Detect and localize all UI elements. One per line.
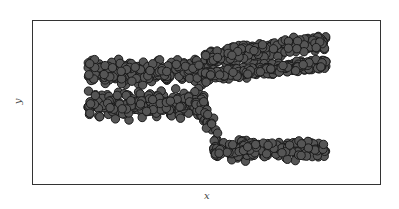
scatter-point — [244, 143, 252, 151]
scatter-point — [279, 61, 287, 69]
scatter-point — [223, 148, 231, 156]
scatter-point — [278, 149, 286, 157]
scatter-point — [256, 68, 264, 76]
scatter-point — [148, 95, 156, 103]
scatter-point — [142, 107, 150, 115]
scatter-point — [86, 100, 94, 108]
scatter-point — [113, 91, 121, 99]
scatter-point — [317, 63, 325, 71]
scatter-point — [202, 51, 210, 59]
scatter-point — [163, 67, 171, 75]
x-axis-label: x — [204, 190, 210, 201]
scatter-point — [229, 141, 237, 149]
scatter-point — [176, 103, 184, 111]
scatter-point — [166, 97, 174, 105]
scatter-point — [108, 63, 116, 71]
scatter-point — [213, 53, 221, 61]
scatter-point — [297, 140, 305, 148]
scatter-point — [136, 100, 144, 108]
scatter-point — [207, 120, 215, 128]
scatter-point — [131, 63, 139, 71]
scatter-point — [284, 44, 292, 52]
scatter-point — [172, 85, 180, 93]
scatter-point — [258, 41, 266, 49]
scatter-point — [250, 46, 258, 54]
scatter-point — [111, 115, 119, 123]
scatter-point — [215, 149, 223, 157]
scatter-point — [312, 43, 320, 51]
y-axis-label: y — [12, 99, 23, 105]
scatter-point — [106, 104, 114, 112]
scatter-point — [118, 105, 126, 113]
scatter-point — [204, 110, 212, 118]
scatter-point — [251, 140, 259, 148]
scatter-figure: x y — [0, 0, 399, 209]
scatter-point — [244, 70, 252, 78]
scatter-point — [207, 71, 215, 79]
scatter-point — [128, 77, 136, 85]
scatter-point — [264, 141, 272, 149]
scatter-point — [267, 65, 275, 73]
scatter-point — [269, 45, 277, 53]
scatter-point — [127, 97, 135, 105]
scatter-point — [262, 150, 270, 158]
scatter-point — [297, 151, 305, 159]
scatter-point — [117, 67, 125, 75]
scatter-point — [293, 45, 301, 53]
scatter-points — [0, 0, 399, 209]
scatter-point — [319, 140, 327, 148]
scatter-point — [229, 68, 237, 76]
scatter-point — [86, 60, 94, 68]
scatter-point — [85, 71, 93, 79]
scatter-point — [172, 60, 180, 68]
scatter-point — [96, 113, 104, 121]
scatter-point — [215, 71, 223, 79]
scatter-point — [291, 67, 299, 75]
scatter-point — [213, 129, 221, 137]
scatter-point — [285, 141, 293, 149]
scatter-point — [100, 70, 108, 78]
scatter-point — [86, 109, 94, 117]
scatter-point — [228, 51, 236, 59]
scatter-point — [200, 98, 208, 106]
scatter-point — [299, 60, 307, 68]
scatter-point — [91, 91, 99, 99]
scatter-point — [176, 114, 184, 122]
scatter-point — [146, 66, 154, 74]
